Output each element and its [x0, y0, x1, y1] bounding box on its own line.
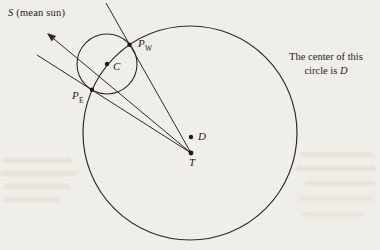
pw-symbol: P	[138, 37, 145, 49]
circle-center-caption: The center of this circle is D	[276, 50, 376, 78]
point-d-label: D	[198, 131, 206, 142]
point-pe-label: PE	[72, 90, 84, 101]
point-t-label: T	[189, 157, 195, 168]
mean-sun-text: (mean sun)	[13, 7, 65, 18]
caption-line-2: circle is D	[276, 64, 376, 78]
pe-symbol: P	[72, 89, 79, 101]
mean-sun-label: S (mean sun)	[8, 8, 65, 19]
pe-subscript: E	[79, 96, 84, 105]
point-d-dot	[189, 135, 193, 139]
point-t-dot	[189, 151, 194, 156]
ptolemaic-epicycle-diagram: S (mean sun) PW C PE D T The center of t…	[0, 0, 380, 250]
point-c-dot	[105, 62, 109, 66]
caption-line-2-text: circle is	[304, 65, 340, 76]
point-pe-dot	[90, 88, 94, 92]
caption-line-2-symbol: D	[340, 65, 348, 76]
point-pw-label: PW	[138, 38, 152, 49]
caption-line-1: The center of this	[276, 50, 376, 64]
point-c-label: C	[113, 61, 121, 72]
deferent-circle	[83, 26, 297, 240]
pw-subscript: W	[145, 44, 152, 53]
diagram-canvas	[0, 0, 380, 250]
point-pw-dot	[127, 43, 131, 47]
tangent-line-pw	[106, 3, 191, 153]
